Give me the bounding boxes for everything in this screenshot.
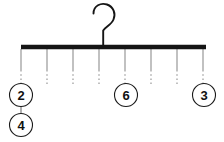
node-circle-2[interactable]: 2	[10, 84, 33, 107]
node-group: 2463	[10, 84, 216, 137]
node-circle-3[interactable]: 3	[193, 84, 216, 107]
hanger-hook-group	[94, 4, 115, 46]
hanger-hook-icon	[94, 4, 115, 46]
node-circle-4[interactable]: 4	[10, 114, 33, 137]
node-circle-6-label: 6	[122, 88, 129, 103]
node-circle-4-label: 4	[17, 118, 25, 133]
node-circle-3-label: 3	[200, 88, 207, 103]
string-group	[21, 49, 203, 84]
hanger-mobile-diagram: 2463	[0, 0, 224, 142]
node-circle-6[interactable]: 6	[115, 84, 138, 107]
node-circle-2-label: 2	[17, 88, 24, 103]
diagram-canvas: 2463	[0, 0, 224, 142]
